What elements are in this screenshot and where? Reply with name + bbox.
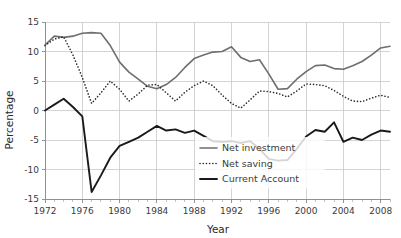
- x-tick-label: 1980: [108, 206, 131, 216]
- x-tick-label: 1988: [183, 206, 206, 216]
- line-chart: -15-10-505101519721976198019841988199219…: [0, 0, 401, 238]
- legend-label: Current Account: [222, 173, 299, 184]
- x-tick-label: 2004: [332, 206, 355, 216]
- x-tick-label: 2008: [369, 206, 392, 216]
- y-tick-label: 10: [28, 47, 40, 57]
- chart-container: -15-10-505101519721976198019841988199219…: [0, 0, 401, 238]
- y-tick-label: -5: [30, 135, 39, 145]
- y-axis-title: Percentage: [3, 90, 15, 149]
- x-tick-label: 1972: [34, 206, 57, 216]
- y-tick-label: -10: [24, 165, 39, 175]
- x-tick-label: 1996: [257, 206, 280, 216]
- y-tick-label: 15: [28, 17, 39, 27]
- x-tick-label: 1984: [145, 206, 168, 216]
- y-tick-label: 5: [33, 76, 39, 86]
- chart-legend: Net investmentNet savingCurrent Account: [195, 137, 325, 189]
- legend-label: Net saving: [222, 158, 273, 169]
- y-tick-label: 0: [33, 106, 39, 116]
- x-tick-label: 1992: [220, 206, 243, 216]
- y-tick-label: -15: [24, 194, 39, 204]
- x-tick-label: 2000: [295, 206, 318, 216]
- x-tick-label: 1976: [71, 206, 94, 216]
- legend-label: Net investment: [222, 142, 296, 153]
- series-line-net-saving: [45, 37, 390, 108]
- x-axis-title: Year: [206, 223, 230, 235]
